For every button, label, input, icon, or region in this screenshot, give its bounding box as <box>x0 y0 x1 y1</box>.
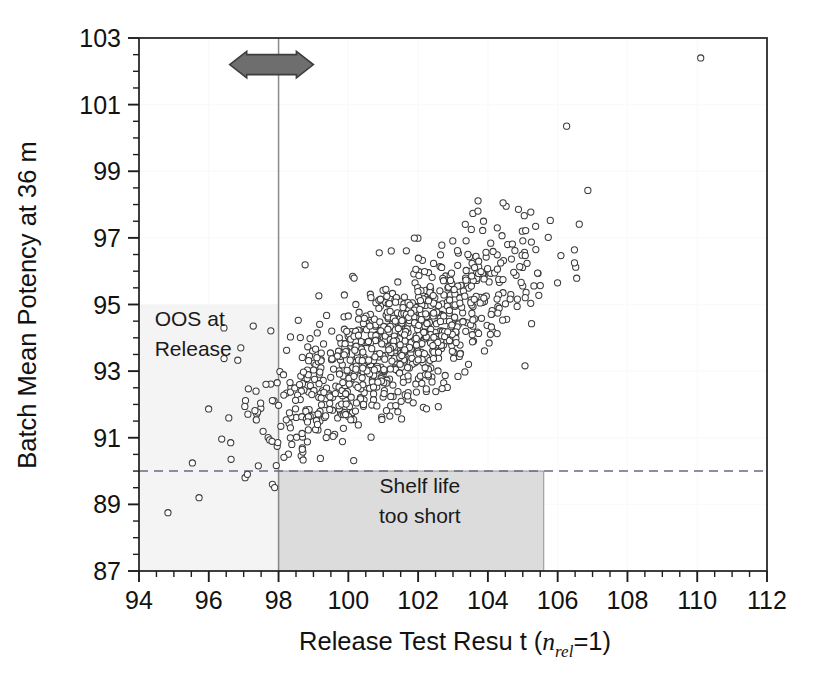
x-tick-label: 106 <box>537 586 579 614</box>
scatter-point <box>320 341 326 347</box>
scatter-point <box>289 441 295 447</box>
y-tick-label: 103 <box>79 24 121 52</box>
scatter-point <box>509 241 515 247</box>
scatter-point <box>481 348 487 354</box>
scatter-point <box>330 366 336 372</box>
scatter-point <box>381 366 387 372</box>
scatter-point <box>413 266 419 272</box>
x-tick-label: 102 <box>397 586 439 614</box>
scatter-point <box>488 311 494 317</box>
scatter-point <box>494 331 500 337</box>
scatter-point <box>346 381 352 387</box>
scatter-point <box>228 440 234 446</box>
scatter-point <box>400 304 406 310</box>
scatter-point <box>260 428 266 434</box>
scatter-point <box>463 267 469 273</box>
scatter-point <box>355 422 361 428</box>
scatter-point <box>462 221 468 227</box>
scatter-point <box>347 357 353 363</box>
scatter-point <box>469 273 475 279</box>
scatter-point <box>545 234 551 240</box>
scatter-point <box>284 347 290 353</box>
scatter-point <box>500 200 506 206</box>
scatter-point <box>449 322 455 328</box>
scatter-point <box>226 415 232 421</box>
scatter-point <box>476 258 482 264</box>
scatter-point <box>377 296 383 302</box>
scatter-point <box>457 300 463 306</box>
scatter-chart-figure: 949698100102104106108110112 878991939597… <box>0 0 815 679</box>
scatter-point <box>468 226 474 232</box>
scatter-point <box>494 225 500 231</box>
scatter-point <box>387 308 393 314</box>
scatter-point <box>413 342 419 348</box>
scatter-point <box>468 283 474 289</box>
scatter-point <box>269 438 275 444</box>
scatter-point <box>528 239 534 245</box>
scatter-point <box>401 294 407 300</box>
scatter-point <box>481 276 487 282</box>
scatter-point <box>494 266 500 272</box>
scatter-point <box>274 380 280 386</box>
region-label-oos-at-release: OOS at <box>155 307 225 330</box>
scatter-point <box>351 457 357 463</box>
scatter-point <box>396 370 402 376</box>
scatter-point <box>378 328 384 334</box>
x-tick-label: 108 <box>607 586 649 614</box>
scatter-point <box>528 321 534 327</box>
scatter-point <box>384 293 390 299</box>
scatter-point <box>385 326 391 332</box>
scatter-point <box>465 361 471 367</box>
scatter-point <box>371 391 377 397</box>
scatter-point <box>327 406 333 412</box>
scatter-point <box>481 295 487 301</box>
scatter-point <box>336 371 342 377</box>
scatter-point <box>386 300 392 306</box>
scatter-point <box>371 367 377 373</box>
scatter-point <box>495 310 501 316</box>
scatter-point <box>304 439 310 445</box>
scatter-point <box>355 384 361 390</box>
scatter-point <box>296 381 302 387</box>
scatter-point <box>345 313 351 319</box>
scatter-point <box>281 392 287 398</box>
scatter-point <box>499 233 505 239</box>
scatter-point <box>280 372 286 378</box>
scatter-point <box>528 209 534 215</box>
scatter-point <box>361 315 367 321</box>
scatter-point <box>382 356 388 362</box>
scatter-point <box>571 260 577 266</box>
scatter-point <box>511 269 517 275</box>
scatter-point <box>439 385 445 391</box>
scatter-point <box>399 318 405 324</box>
y-tick-label: 93 <box>93 357 121 385</box>
scatter-point <box>244 471 250 477</box>
scatter-point <box>376 250 382 256</box>
scatter-point <box>165 510 171 516</box>
scatter-point <box>439 242 445 248</box>
scatter-point <box>305 427 311 433</box>
scatter-point <box>470 317 476 323</box>
scatter-point <box>554 280 560 286</box>
scatter-point <box>429 379 435 385</box>
scatter-point <box>453 339 459 345</box>
scatter-point <box>521 213 527 219</box>
scatter-point <box>400 379 406 385</box>
scatter-point <box>462 369 468 375</box>
scatter-point <box>286 410 292 416</box>
scatter-point <box>245 386 251 392</box>
scatter-point <box>494 296 500 302</box>
scatter-point <box>387 366 393 372</box>
scatter-point <box>448 270 454 276</box>
scatter-point <box>398 398 404 404</box>
scatter-point <box>463 238 469 244</box>
scatter-point <box>372 354 378 360</box>
scatter-point <box>512 248 518 254</box>
scatter-point <box>508 256 514 262</box>
scatter-point <box>413 335 419 341</box>
scatter-point <box>275 439 281 445</box>
y-tick-label: 91 <box>93 424 121 452</box>
scatter-point <box>299 354 305 360</box>
scatter-point <box>507 296 513 302</box>
scatter-point <box>430 293 436 299</box>
